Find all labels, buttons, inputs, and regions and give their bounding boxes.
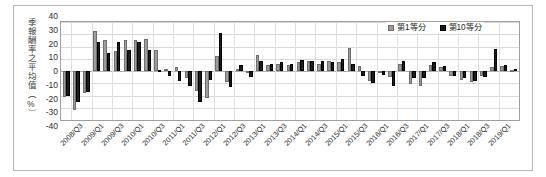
bar-series-10 bbox=[270, 64, 273, 71]
y-axis-tick-label: 40 bbox=[36, 12, 58, 21]
bar-series-10 bbox=[310, 61, 313, 71]
chart-legend: 第1等分 第10等分 bbox=[386, 22, 484, 33]
bar-series-10 bbox=[494, 49, 497, 71]
bar-series-10 bbox=[453, 71, 456, 76]
bar-series-10 bbox=[239, 65, 242, 71]
bar-series-10 bbox=[331, 62, 334, 71]
bar-series-10 bbox=[443, 66, 446, 71]
bar-series-10 bbox=[371, 71, 374, 83]
bar-series-10 bbox=[209, 71, 212, 80]
bar-series-10 bbox=[188, 71, 191, 86]
bar-series-10 bbox=[341, 59, 344, 71]
legend-item-series-1[interactable]: 第1等分 bbox=[388, 23, 426, 32]
bar-series-10 bbox=[321, 61, 324, 71]
legend-label-series-1: 第1等分 bbox=[397, 23, 426, 32]
bar-series-1 bbox=[154, 50, 157, 71]
bar-series-10 bbox=[66, 71, 69, 96]
bars-layer bbox=[61, 22, 519, 120]
bar-series-10 bbox=[178, 71, 181, 81]
gridline-horizontal bbox=[61, 120, 519, 121]
bar-series-10 bbox=[402, 61, 405, 71]
bar-series-10 bbox=[249, 71, 252, 77]
bar-series-10 bbox=[97, 42, 100, 71]
y-axis-tick-label: 10 bbox=[36, 53, 58, 62]
bar-series-10 bbox=[76, 71, 79, 102]
y-axis-tick-labels: 403020100-10-20-30-40 bbox=[36, 16, 58, 126]
bar-series-10 bbox=[158, 70, 161, 72]
bar-series-10 bbox=[392, 71, 395, 86]
bar-series-10 bbox=[504, 65, 507, 71]
y-axis-tick-label: -30 bbox=[36, 108, 58, 117]
bar-series-10 bbox=[198, 71, 201, 102]
bar-series-10 bbox=[168, 71, 171, 76]
bar-series-10 bbox=[361, 71, 364, 76]
bar-series-10 bbox=[148, 50, 151, 71]
bar-series-10 bbox=[280, 62, 283, 71]
bar-series-10 bbox=[219, 33, 222, 71]
legend-swatch-icon-series-1 bbox=[388, 25, 394, 31]
bar-series-10 bbox=[351, 64, 354, 71]
bar-series-10 bbox=[107, 53, 110, 71]
legend-label-series-10: 第10等分 bbox=[449, 23, 482, 32]
bar-series-10 bbox=[483, 71, 486, 77]
y-axis-tick-label: 0 bbox=[36, 67, 58, 76]
bar-series-10 bbox=[463, 71, 466, 78]
chart-container: 季報酬率之平均值（%） 403020100-10-20-30-40 2008/Q… bbox=[0, 0, 546, 177]
bar-series-10 bbox=[514, 69, 517, 71]
y-axis-tick-label: 20 bbox=[36, 39, 58, 48]
y-axis-tick-label: -20 bbox=[36, 94, 58, 103]
bar-series-10 bbox=[86, 71, 89, 92]
bar-series-10 bbox=[127, 50, 130, 71]
y-axis-tick-label: -10 bbox=[36, 80, 58, 89]
legend-swatch-icon-series-10 bbox=[440, 25, 446, 31]
bar-series-10 bbox=[412, 71, 415, 78]
bar-series-10 bbox=[422, 71, 425, 78]
bar-series-10 bbox=[432, 62, 435, 71]
plot-area bbox=[60, 21, 520, 121]
y-axis-tick-label: 30 bbox=[36, 25, 58, 34]
bar-series-10 bbox=[300, 60, 303, 71]
bar-series-10 bbox=[137, 42, 140, 71]
bar-series-10 bbox=[229, 71, 232, 87]
y-axis-tick-label: -40 bbox=[36, 122, 58, 131]
x-axis-tick-labels: 2008/Q32009/Q12009/Q32010/Q12010/Q32011/… bbox=[60, 122, 522, 170]
bar-series-10 bbox=[259, 61, 262, 71]
bar-series-10 bbox=[290, 64, 293, 71]
bar-series-10 bbox=[117, 42, 120, 71]
bar-series-10 bbox=[473, 71, 476, 81]
legend-item-series-10[interactable]: 第10等分 bbox=[440, 23, 482, 32]
bar-series-10 bbox=[382, 71, 385, 75]
